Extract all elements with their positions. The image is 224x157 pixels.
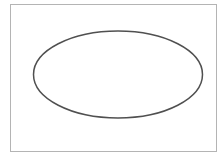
ellipse-shape[interactable] xyxy=(34,31,203,118)
drawing-canvas xyxy=(0,0,224,157)
diagram-svg xyxy=(0,0,224,157)
frame-border xyxy=(11,5,217,152)
